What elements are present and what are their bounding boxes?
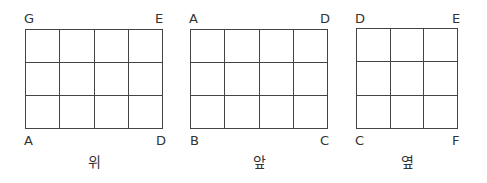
corner-label-bottom-left: C <box>355 134 364 147</box>
view-side: D E C F 옆 <box>0 0 487 183</box>
caption-side-view: 옆 <box>387 155 427 169</box>
corner-label-top-left: D <box>355 12 365 25</box>
corner-label-bottom-right: F <box>452 134 459 147</box>
corner-label-top-right: E <box>452 12 460 25</box>
grid-side-view <box>356 28 458 129</box>
